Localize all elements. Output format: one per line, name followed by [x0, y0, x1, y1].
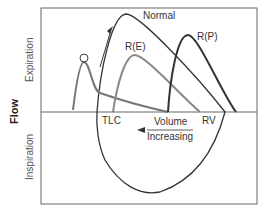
re-label: R(E) [125, 41, 146, 52]
restrictive-extrinsic-curve [113, 55, 200, 112]
rv-label: RV [202, 115, 216, 126]
tlc-label: TLC [102, 115, 121, 126]
increasing-label: Increasing [147, 131, 193, 142]
inspiration-label: Inspiration [24, 134, 35, 180]
expiration-label: Expiration [24, 38, 35, 82]
flow-axis-label: Flow [8, 99, 20, 124]
direction-arrow [100, 30, 111, 67]
volume-label: Volume [154, 116, 188, 127]
normal-label: Normal [143, 10, 175, 21]
rp-label: R(P) [197, 31, 218, 42]
left-arrow-icon [137, 127, 145, 133]
restrictive-parenchymal-curve [168, 35, 236, 112]
obstructive-curve [73, 62, 168, 112]
flow-volume-diagram: Normal O R(E) R(P) TLC RV Volume Increas… [0, 0, 268, 213]
